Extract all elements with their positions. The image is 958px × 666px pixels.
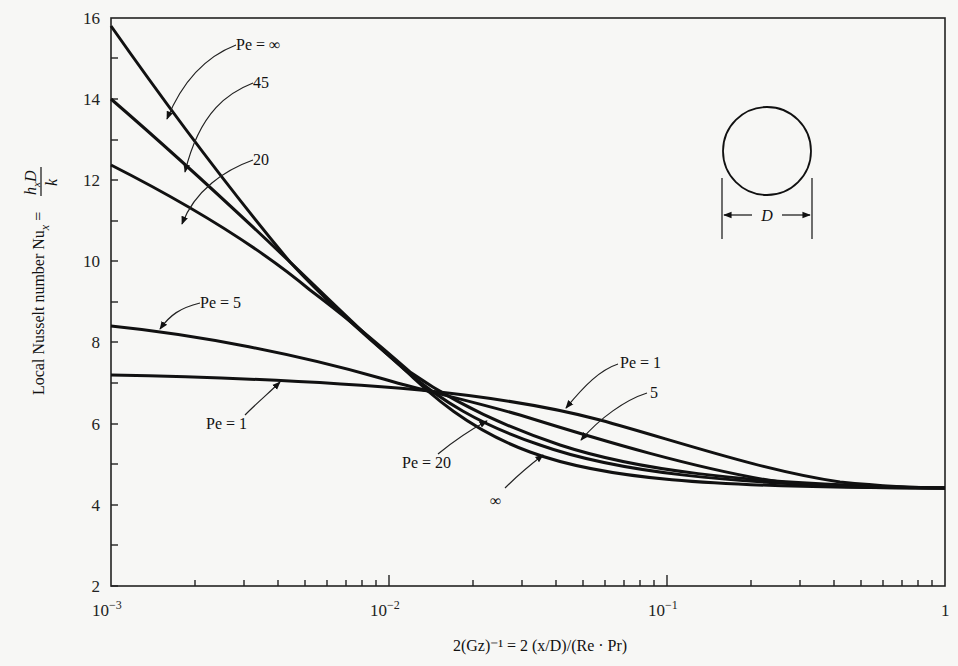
- annotation-pe-1-right: Pe = 1: [620, 354, 661, 371]
- annotation-inf-right: ∞: [490, 492, 501, 509]
- leader-inf-right: [505, 455, 543, 488]
- annotation-5-right: 5: [650, 384, 658, 401]
- y-tick-6: 6: [92, 415, 101, 434]
- leader-pe-5: [160, 303, 200, 329]
- annotations: Pe = ∞ 45 20 Pe = 5 Pe = 1 Pe = 1 5 Pe =…: [160, 36, 661, 509]
- svg-text:k: k: [43, 178, 60, 186]
- annotation-pe-5: Pe = 5: [200, 294, 241, 311]
- x-tick-1e-3: 10−3: [92, 598, 122, 620]
- y-tick-16: 16: [83, 9, 100, 28]
- x-tick-1: 1: [941, 601, 950, 620]
- y-tick-2: 2: [92, 577, 101, 596]
- x-tick-labels: 10−3 10−2 10−1 1: [92, 598, 950, 620]
- tube-diagram: D: [722, 107, 812, 239]
- y-tick-4: 4: [92, 496, 101, 515]
- y-tick-labels: 2 4 6 8 10 12 14 16: [83, 9, 101, 596]
- y-tick-12: 12: [83, 171, 100, 190]
- tube-circle: [723, 107, 811, 195]
- svg-text:Local Nusselt number Nux =: Local Nusselt number Nux =: [30, 212, 52, 395]
- annotation-pe-inf: Pe = ∞: [236, 36, 280, 53]
- annotation-pe-20-right: Pe = 20: [402, 454, 451, 471]
- leader-pe-1-right: [566, 364, 618, 408]
- y-tick-8: 8: [92, 333, 101, 352]
- diameter-label: D: [760, 207, 773, 224]
- y-axis: [111, 58, 118, 586]
- y-axis-title: Local Nusselt number Nux = hxD k: [22, 167, 60, 395]
- x-axis: [195, 575, 932, 586]
- y-tick-10: 10: [83, 252, 100, 271]
- x-tick-1e-2: 10−2: [370, 598, 400, 620]
- annotation-20: 20: [253, 151, 269, 168]
- svg-text:hxD: hxD: [22, 170, 42, 195]
- leader-pe-1-left: [245, 382, 280, 415]
- annotation-pe-1-left: Pe = 1: [206, 415, 247, 432]
- x-tick-1e-1: 10−1: [648, 598, 678, 620]
- annotation-45: 45: [253, 74, 269, 91]
- nusselt-chart: 2 4 6 8 10 12 14 16: [0, 0, 958, 666]
- y-tick-14: 14: [83, 90, 101, 109]
- curve-pe-5: [111, 326, 945, 488]
- x-axis-title: 2(Gz)⁻¹ = 2 (x/D)/(Re · Pr): [453, 637, 627, 655]
- leader-pe-inf: [167, 45, 236, 119]
- leader-45: [185, 83, 253, 172]
- leader-pe-20-right: [438, 421, 487, 454]
